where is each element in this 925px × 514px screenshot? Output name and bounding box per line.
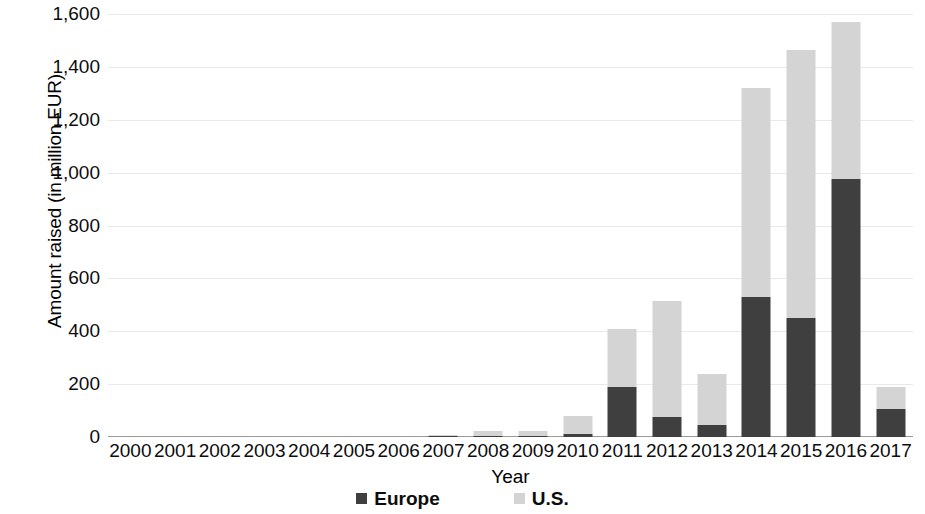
y-axis-tick-label: 800 — [8, 216, 100, 235]
bar-group[interactable] — [779, 14, 824, 437]
bar-group[interactable] — [421, 14, 466, 437]
bar-group[interactable] — [555, 14, 600, 437]
bar-segment-europe[interactable] — [876, 409, 905, 437]
bar-segment-us[interactable] — [653, 301, 682, 417]
x-axis-tick-label: 2008 — [467, 440, 509, 462]
bar-group[interactable] — [511, 14, 556, 437]
bar-group[interactable] — [332, 14, 377, 437]
legend-entry[interactable]: U.S. — [514, 489, 569, 508]
bar-group[interactable] — [108, 14, 153, 437]
x-axis-tick-label: 2002 — [199, 440, 241, 462]
bar-segment-us[interactable] — [563, 416, 592, 435]
y-axis-tick-label: 200 — [8, 374, 100, 393]
bar-segment-europe[interactable] — [697, 425, 726, 437]
bar-stack[interactable] — [876, 387, 905, 437]
y-axis-tick-label: 1,400 — [8, 57, 100, 76]
bar-group[interactable] — [376, 14, 421, 437]
bar-stack[interactable] — [831, 22, 860, 437]
legend-entry[interactable]: Europe — [356, 489, 439, 508]
bar-segment-us[interactable] — [787, 50, 816, 318]
bar-segment-europe[interactable] — [608, 387, 637, 437]
bar-group[interactable] — [242, 14, 287, 437]
x-axis-tick-label: 2010 — [556, 440, 598, 462]
bar-segment-europe[interactable] — [518, 436, 547, 437]
bar-segment-europe[interactable] — [429, 436, 458, 437]
x-axis-tick-label: 2003 — [243, 440, 285, 462]
bar-series-container — [108, 14, 913, 437]
bar-group[interactable] — [689, 14, 734, 437]
bar-segment-us[interactable] — [876, 387, 905, 409]
bar-segment-us[interactable] — [742, 88, 771, 297]
y-axis-tick-label: 1,200 — [8, 110, 100, 129]
bar-group[interactable] — [153, 14, 198, 437]
x-axis-tick-label: 2014 — [735, 440, 777, 462]
legend-label: Europe — [374, 489, 439, 508]
y-axis-tick-label: 600 — [8, 268, 100, 287]
x-axis-tick-label: 2006 — [378, 440, 420, 462]
bar-group[interactable] — [466, 14, 511, 437]
bar-group[interactable] — [734, 14, 779, 437]
x-axis-tick-label: 2012 — [646, 440, 688, 462]
y-axis-tick-label: 1,600 — [8, 4, 100, 23]
bar-segment-us[interactable] — [831, 22, 860, 179]
bar-stack[interactable] — [787, 50, 816, 437]
x-axis-tick-labels: 2000200120022003200420052006200720082009… — [108, 440, 913, 466]
bar-stack[interactable] — [742, 88, 771, 437]
bar-segment-europe[interactable] — [787, 318, 816, 437]
bar-segment-europe[interactable] — [563, 434, 592, 437]
x-axis-tick-label: 2015 — [780, 440, 822, 462]
legend-label: U.S. — [532, 489, 569, 508]
bar-stack[interactable] — [518, 431, 547, 437]
bar-segment-us[interactable] — [697, 374, 726, 426]
x-axis-tick-label: 2009 — [512, 440, 554, 462]
bar-segment-europe[interactable] — [831, 179, 860, 437]
x-axis-tick-label: 2011 — [602, 440, 643, 462]
bar-stack[interactable] — [429, 435, 458, 437]
bar-stack[interactable] — [697, 374, 726, 437]
y-axis-tick-label: 400 — [8, 321, 100, 340]
bar-stack[interactable] — [653, 301, 682, 437]
stacked-bar-chart: Amount raised (in million EUR) 1,6001,40… — [0, 0, 925, 514]
bar-stack[interactable] — [474, 431, 503, 437]
bar-stack[interactable] — [563, 416, 592, 437]
bar-segment-europe[interactable] — [653, 417, 682, 437]
x-axis-title: Year — [108, 466, 913, 488]
bar-segment-europe[interactable] — [474, 436, 503, 437]
bar-segment-us[interactable] — [608, 329, 637, 387]
x-axis-tick-label: 2013 — [691, 440, 733, 462]
chart-legend: EuropeU.S. — [0, 489, 925, 508]
x-axis-tick-label: 2016 — [825, 440, 867, 462]
bar-stack[interactable] — [608, 329, 637, 437]
bar-group[interactable] — [824, 14, 869, 437]
x-axis-tick-label: 2001 — [154, 440, 196, 462]
x-axis-tick-label: 2005 — [333, 440, 375, 462]
y-axis-tick-labels: 1,6001,4001,2001,0008006004002000 — [0, 0, 100, 514]
bar-group[interactable] — [600, 14, 645, 437]
legend-swatch-icon — [356, 493, 367, 504]
x-axis-tick-label: 2007 — [422, 440, 464, 462]
bar-group[interactable] — [868, 14, 913, 437]
bar-group[interactable] — [645, 14, 690, 437]
bar-group[interactable] — [287, 14, 332, 437]
x-axis-tick-label: 2004 — [288, 440, 330, 462]
x-axis-tick-label: 2000 — [109, 440, 151, 462]
legend-swatch-icon — [514, 493, 525, 504]
y-axis-tick-label: 1,000 — [8, 163, 100, 182]
bar-segment-europe[interactable] — [742, 297, 771, 437]
y-axis-tick-label: 0 — [8, 427, 100, 446]
bar-group[interactable] — [197, 14, 242, 437]
x-axis-tick-label: 2017 — [869, 440, 911, 462]
